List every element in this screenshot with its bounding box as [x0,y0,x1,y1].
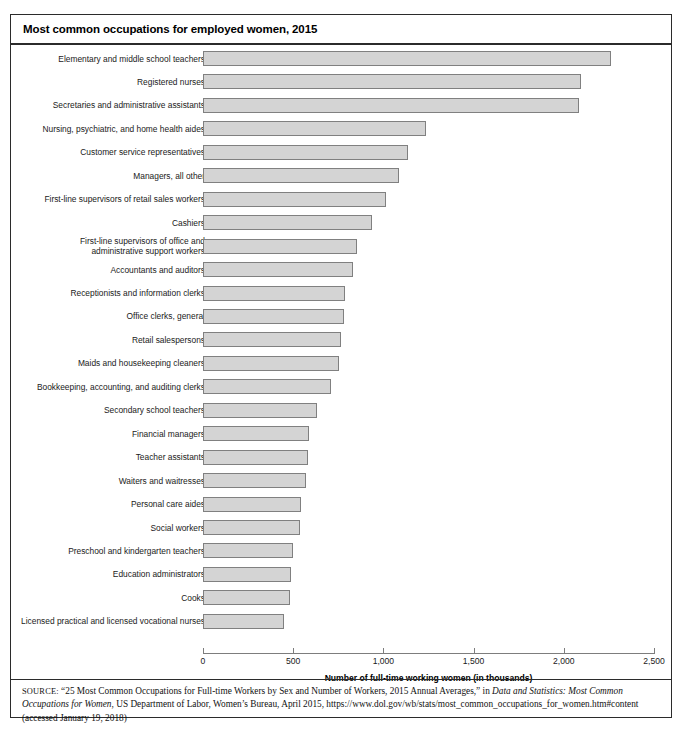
bar [203,332,341,347]
source-divider [11,679,671,680]
category-label: Accountants and auditors [0,265,205,275]
category-label: Elementary and middle school teachers [0,54,205,64]
category-label: Cooks [0,593,205,603]
category-label: Receptionists and information clerks [0,288,205,298]
bar [203,51,611,66]
x-axis-tick [654,648,655,654]
x-axis-tick-label: 500 [286,656,300,666]
x-axis-tick [293,648,294,654]
chart-row: Cashiers [11,215,673,230]
category-label: Licensed practical and licensed vocation… [0,616,205,626]
bar [203,614,284,629]
category-label: Office clerks, general [0,311,205,321]
x-axis-tick-label: 1,000 [373,656,395,666]
chart-row: Registered nurses [11,74,673,89]
x-axis-tick [474,648,475,654]
chart-row: Waiters and waitresses [11,473,673,488]
x-axis-tick [203,648,204,654]
chart-row: Bookkeeping, accounting, and auditing cl… [11,379,673,394]
chart-row: Maids and housekeeping cleaners [11,356,673,371]
bar [203,145,408,160]
bar [203,379,331,394]
category-label: First-line supervisors of office and adm… [0,236,205,256]
chart-row: Accountants and auditors [11,262,673,277]
category-label: Secretaries and administrative assistant… [0,100,205,110]
bar [203,497,301,512]
chart-row: First-line supervisors of office and adm… [11,239,673,254]
bar-chart-plot: Elementary and middle school teachersReg… [11,45,673,665]
bar [203,286,345,301]
bar [203,356,339,371]
category-label: Secondary school teachers [0,405,205,415]
chart-row: Secretaries and administrative assistant… [11,98,673,113]
chart-row: Cooks [11,590,673,605]
bar [203,215,372,230]
category-label: Nursing, psychiatric, and home health ai… [0,124,205,134]
x-axis-tick-label: 0 [201,656,206,666]
chart-row: Nursing, psychiatric, and home health ai… [11,121,673,136]
category-label: Teacher assistants [0,452,205,462]
source-label: SOURCE: [22,687,59,696]
chart-row: Elementary and middle school teachers [11,51,673,66]
bar [203,543,293,558]
chart-row: Licensed practical and licensed vocation… [11,614,673,629]
page-title: Most common occupations for employed wom… [23,23,317,35]
figure-panel: Most common occupations for employed wom… [10,14,672,718]
chart-row: Customer service representatives [11,145,673,160]
category-label: Waiters and waitresses [0,476,205,486]
bar [203,426,309,441]
source-text-2: , US Department of Labor, Women’s Bureau… [22,699,638,722]
x-axis-tick-label: 2,500 [643,656,665,666]
category-label: Financial managers [0,429,205,439]
bar [203,567,291,582]
chart-row: Financial managers [11,426,673,441]
bar [203,192,386,207]
chart-row: Managers, all other [11,168,673,183]
category-label: Bookkeeping, accounting, and auditing cl… [0,382,205,392]
category-label: Social workers [0,523,205,533]
category-label: Registered nurses [0,77,205,87]
bar [203,262,353,277]
category-label: Maids and housekeeping cleaners [0,358,205,368]
x-axis-tick-label: 2,000 [553,656,575,666]
bar [203,450,308,465]
chart-row: Teacher assistants [11,450,673,465]
chart-row: Personal care aides [11,497,673,512]
category-label: Retail salespersons [0,335,205,345]
category-label: Managers, all other [0,171,205,181]
bar [203,239,357,254]
category-label: Preschool and kindergarten teachers [0,546,205,556]
bar [203,520,300,535]
category-label: Education administrators [0,569,205,579]
bar [203,168,399,183]
chart-row: Education administrators [11,567,673,582]
chart-row: Secondary school teachers [11,403,673,418]
x-axis-tick [383,648,384,654]
chart-row: Social workers [11,520,673,535]
chart-row: Receptionists and information clerks [11,286,673,301]
bar [203,74,581,89]
x-axis-tick [564,648,565,654]
category-label: Customer service representatives [0,147,205,157]
x-axis-line [203,653,654,654]
chart-row: Preschool and kindergarten teachers [11,543,673,558]
category-label: First-line supervisors of retail sales w… [0,194,205,204]
category-label: Cashiers [0,218,205,228]
x-axis-tick-label: 1,500 [463,656,485,666]
bar [203,590,290,605]
x-axis-title: Number of full-time working women (in th… [203,673,654,683]
chart-row: Retail salespersons [11,332,673,347]
chart-row: Office clerks, general [11,309,673,324]
chart-row: First-line supervisors of retail sales w… [11,192,673,207]
category-label: Personal care aides [0,499,205,509]
bar [203,121,426,136]
bar [203,98,579,113]
bar [203,309,344,324]
bar [203,473,306,488]
source-note: SOURCE: “25 Most Common Occupations for … [22,685,660,725]
bar [203,403,317,418]
source-text-1: “25 Most Common Occupations for Full-tim… [59,686,492,696]
